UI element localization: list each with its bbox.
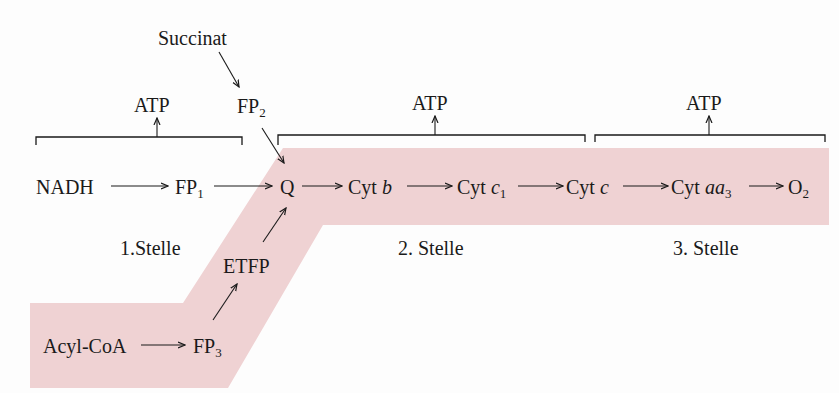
cyt-aa3-italic: aa (705, 176, 725, 198)
etfp-label: ETFP (223, 256, 270, 276)
fp2-label: FP2 (237, 96, 266, 116)
o2-subscript: 2 (802, 186, 809, 201)
q-label: Q (280, 177, 294, 197)
bracket-site-3 (595, 135, 825, 142)
cyt-b-label: Cyt b (348, 177, 392, 197)
arrow-succinat-fp2 (219, 52, 239, 87)
cyt-b-italic: b (382, 176, 392, 198)
cyt-c1-label: Cyt c1 (457, 177, 506, 197)
fp2-text: FP (237, 95, 259, 117)
fp1-subscript: 1 (197, 186, 204, 201)
cyt-aa3-subscript: 3 (725, 186, 732, 201)
cyt-c-text: Cyt (566, 176, 600, 198)
fp2-subscript: 2 (259, 105, 266, 120)
bracket-site-1 (36, 137, 242, 145)
cyt-c1-italic: c (491, 176, 500, 198)
fp3-label: FP3 (193, 336, 222, 356)
nadh-label: NADH (36, 177, 94, 197)
bracket-site-2 (278, 135, 585, 145)
fp1-label: FP1 (175, 177, 204, 197)
electron-transport-chain-diagram: Succinat ATP FP2 ATP ATP NADH FP1 Q Cyt … (0, 0, 839, 393)
cyt-c-label: Cyt c (566, 177, 609, 197)
site-label-1: 1.Stelle (120, 238, 181, 258)
atp-label-1: ATP (134, 95, 170, 115)
atp-label-2: ATP (412, 93, 448, 113)
acyl-coa-label: Acyl-CoA (43, 336, 126, 356)
fp1-text: FP (175, 176, 197, 198)
o2-label: O2 (788, 177, 809, 197)
fp3-text: FP (193, 335, 215, 357)
cyt-aa3-label: Cyt aa3 (671, 177, 731, 197)
cyt-c1-subscript: 1 (500, 186, 507, 201)
site-label-2: 2. Stelle (398, 238, 464, 258)
cyt-c-italic: c (600, 176, 609, 198)
fp3-subscript: 3 (215, 345, 222, 360)
arrow-fp2-q (262, 128, 284, 163)
cyt-aa3-text: Cyt (671, 176, 705, 198)
cyt-b-text: Cyt (348, 176, 382, 198)
cyt-c1-text: Cyt (457, 176, 491, 198)
succinat-label: Succinat (158, 28, 227, 48)
o2-text: O (788, 176, 802, 198)
site-label-3: 3. Stelle (673, 238, 739, 258)
atp-label-3: ATP (686, 93, 722, 113)
